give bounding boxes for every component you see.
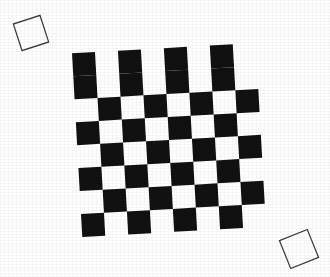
checker-cell-r7-c2 (127, 210, 151, 234)
checker-cell-r5-c2 (124, 164, 148, 188)
checker-cell-r6-c7 (240, 181, 264, 205)
checker-cell-r4-c3 (146, 140, 170, 164)
checker-cell-r1-c0 (73, 75, 97, 99)
checker-cell-r4-c1 (100, 143, 124, 167)
checker-cell-r6-c5 (195, 183, 219, 207)
checker-cell-r7-c0 (81, 213, 105, 237)
checker-cell-r4-c7 (238, 135, 262, 159)
checker-cell-r1-c2 (119, 72, 143, 96)
checker-cell-r0-c6 (210, 44, 234, 68)
checker-cell-r3-c2 (122, 118, 146, 142)
checker-cell-r2-c3 (143, 94, 167, 118)
image-canvas (0, 0, 330, 277)
checker-cell-r1-c4 (165, 70, 189, 94)
checker-cell-r3-c4 (168, 116, 192, 140)
checker-cell-r3-c6 (214, 113, 238, 137)
checker-cell-r2-c5 (189, 92, 213, 116)
checker-cell-r5-c0 (78, 167, 102, 191)
checker-cell-r7-c4 (173, 208, 197, 232)
checker-cell-r1-c6 (211, 67, 235, 91)
checker-cell-r7-c6 (219, 205, 243, 229)
background-plate (0, 0, 330, 277)
checker-cell-r0-c2 (118, 49, 142, 73)
checker-cell-r6-c1 (103, 188, 127, 212)
checker-cell-r5-c4 (170, 162, 194, 186)
checker-cell-r2-c1 (98, 97, 122, 121)
checker-cell-r3-c0 (76, 121, 100, 145)
checker-cell-r0-c0 (72, 52, 96, 76)
checker-cell-r0-c4 (164, 47, 188, 71)
checker-cell-r2-c7 (235, 89, 259, 113)
checker-cell-r5-c6 (216, 159, 240, 183)
checker-cell-r4-c5 (192, 137, 216, 161)
scene-vector-root (0, 0, 330, 277)
checker-cell-r6-c3 (149, 186, 173, 210)
